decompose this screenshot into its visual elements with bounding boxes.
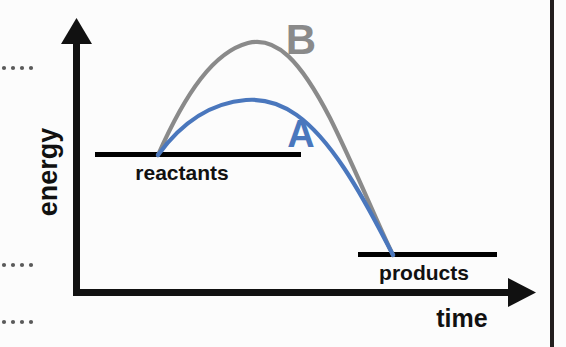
products-label: products [379,261,469,284]
curve-b-label: B [286,16,316,63]
reaction-energy-diagram: energy time reactants products B A [0,0,566,347]
y-axis-label: energy [33,128,63,217]
figure-canvas: energy time reactants products B A [0,0,566,347]
products-level-line [358,252,497,257]
curve-a-label: A [287,113,314,155]
reactants-label: reactants [135,161,228,184]
x-axis-label: time [436,304,488,332]
y-axis-line [73,30,80,296]
page-border-rule [550,0,554,347]
reactants-level-line [95,152,301,157]
x-axis-line [73,289,523,296]
